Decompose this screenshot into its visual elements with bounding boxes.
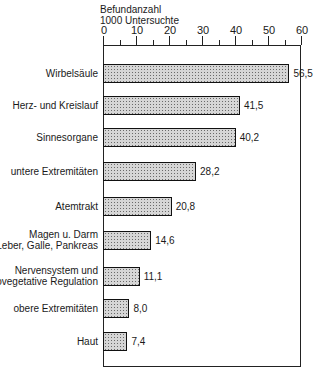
bar <box>103 96 240 115</box>
value-label: 41,5 <box>244 100 263 111</box>
axis-title-line1: Befundanzahl <box>100 4 179 15</box>
major-tick <box>103 36 104 45</box>
major-tick <box>202 36 203 45</box>
bar <box>103 197 172 216</box>
axis-title: Befundanzahl 1000 Untersuchte <box>100 4 179 26</box>
category-label: Wirbelsäule <box>46 68 98 79</box>
major-tick <box>235 36 236 45</box>
tick-label: 40 <box>230 24 242 36</box>
major-tick <box>268 36 269 45</box>
tick-label: 20 <box>164 24 176 36</box>
value-label: 14,6 <box>155 235 174 246</box>
category-label: untere Extremitäten <box>11 166 98 177</box>
tick-label: 10 <box>131 24 143 36</box>
tick-label: 60 <box>296 24 308 36</box>
bar <box>103 267 140 286</box>
category-label: Nervensystem undpsychovegetative Regulat… <box>0 265 98 287</box>
bar <box>103 64 289 83</box>
bar <box>103 332 127 351</box>
bar <box>103 231 151 250</box>
category-label: obere Extremitäten <box>14 303 99 314</box>
tick-label: 50 <box>263 24 275 36</box>
category-label: Magen u. DarmLeber, Galle, Pankreas <box>0 229 98 251</box>
tick-label: 0 <box>101 24 107 36</box>
value-label: 56,5 <box>293 68 312 79</box>
value-label: 11,1 <box>144 271 163 282</box>
category-label: Atemtrakt <box>55 201 98 212</box>
bar <box>103 299 129 318</box>
value-label: 28,2 <box>200 166 219 177</box>
bar <box>103 162 196 181</box>
category-label: Haut <box>77 336 98 347</box>
major-tick <box>169 36 170 45</box>
major-tick <box>136 36 137 45</box>
value-label: 8,0 <box>133 303 147 314</box>
bar <box>103 128 236 147</box>
value-label: 40,2 <box>240 132 259 143</box>
category-label: Sinnesorgane <box>36 132 98 143</box>
major-tick <box>301 36 302 45</box>
value-label: 7,4 <box>131 336 145 347</box>
category-label: Herz- und Kreislauf <box>12 100 98 111</box>
tick-label: 30 <box>197 24 209 36</box>
value-label: 20,8 <box>176 201 195 212</box>
